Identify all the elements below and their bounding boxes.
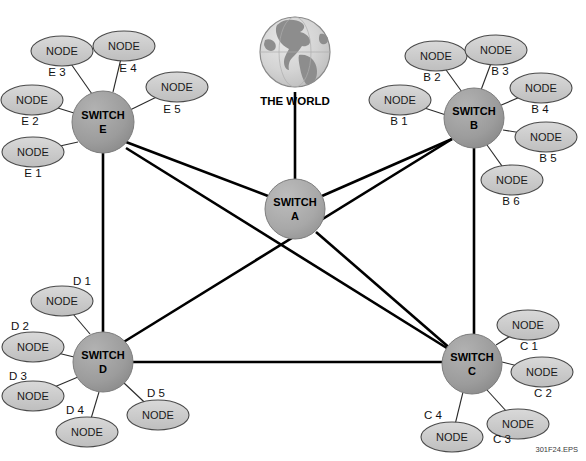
node-label-e4: NODE <box>108 40 140 52</box>
node-tag-c2: C 2 <box>534 387 552 399</box>
node-label-e3: NODE <box>46 45 78 57</box>
node-tag-b6: B 6 <box>502 195 519 207</box>
node-tag-d4: D 4 <box>66 404 85 416</box>
node-tag-e5: E 5 <box>163 103 180 115</box>
node-tag-c4: C 4 <box>424 409 443 421</box>
switch-id-a: A <box>291 210 299 222</box>
switch-label-c: SWITCH <box>450 351 493 363</box>
node-label-d3: NODE <box>17 390 49 402</box>
switch-label-e: SWITCH <box>81 109 124 121</box>
switch-a[interactable]: SWITCHA <box>265 179 325 239</box>
node-label-d2: NODE <box>17 341 49 353</box>
node-tag-e3: E 3 <box>48 66 65 78</box>
node-tag-e1: E 1 <box>24 167 41 179</box>
node-label-b2: NODE <box>420 50 452 62</box>
node-label-e1: NODE <box>17 146 49 158</box>
diagram-canvas: NODEE 1NODEE 2NODEE 3NODEE 4NODEE 5NODEB… <box>0 0 586 461</box>
switch-b[interactable]: SWITCHB <box>444 88 504 148</box>
node-tag-d5: D 5 <box>147 387 165 399</box>
node-tag-e4: E 4 <box>119 62 137 74</box>
node-tag-b1: B 1 <box>390 115 407 127</box>
network-topology-diagram: NODEE 1NODEE 2NODEE 3NODEE 4NODEE 5NODEB… <box>0 0 586 461</box>
node-tag-b3: B 3 <box>491 65 508 77</box>
node-tag-b5: B 5 <box>539 152 556 164</box>
node-tag-d3: D 3 <box>9 370 27 382</box>
node-tag-d2: D 2 <box>11 320 29 332</box>
switch-d[interactable]: SWITCHD <box>73 332 133 392</box>
node-label-b6: NODE <box>496 174 528 186</box>
world-caption-label: THE WORLD <box>260 95 330 107</box>
node-tag-e2: E 2 <box>21 115 38 127</box>
node-label-e5: NODE <box>161 81 193 93</box>
node-label-d1: NODE <box>46 295 78 307</box>
switch-label-b: SWITCH <box>452 105 495 117</box>
switch-id-c: C <box>468 365 476 377</box>
node-tag-b2: B 2 <box>423 71 440 83</box>
switch-id-b: B <box>470 119 478 131</box>
node-tag-c1: C 1 <box>520 340 538 352</box>
node-label-b3: NODE <box>480 44 512 56</box>
node-tag-c3: C 3 <box>493 433 511 445</box>
node-label-c2: NODE <box>526 366 558 378</box>
node-tag-d1: D 1 <box>73 275 91 287</box>
node-label-c1: NODE <box>512 319 544 331</box>
figure-id-caption: 301F24.EPS <box>535 445 578 454</box>
node-label-b4: NODE <box>525 82 557 94</box>
node-label-d5: NODE <box>142 409 174 421</box>
switch-label-a: SWITCH <box>273 196 316 208</box>
node-label-e2: NODE <box>16 94 48 106</box>
switch-c[interactable]: SWITCHC <box>442 334 502 394</box>
node-label-d4: NODE <box>71 426 103 438</box>
switch-id-e: E <box>99 123 106 135</box>
node-label-c3: NODE <box>502 418 534 430</box>
node-label-b5: NODE <box>530 131 562 143</box>
switch-e[interactable]: SWITCHE <box>72 91 134 153</box>
node-label-b1: NODE <box>384 94 416 106</box>
switch-id-d: D <box>99 363 107 375</box>
node-tag-b4: B 4 <box>531 103 549 115</box>
node-label-c4: NODE <box>436 431 468 443</box>
switch-label-d: SWITCH <box>81 349 124 361</box>
